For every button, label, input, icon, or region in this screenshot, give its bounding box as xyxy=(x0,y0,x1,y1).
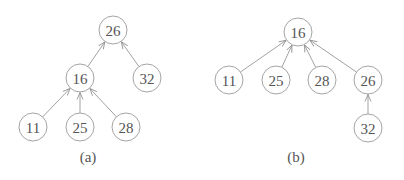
node-label: 32 xyxy=(361,121,376,137)
node-label: 11 xyxy=(26,120,40,136)
edge-28-to-16 xyxy=(304,45,315,68)
node-28: 28 xyxy=(112,113,140,141)
node-label: 11 xyxy=(222,73,236,89)
edge-32-to-26 xyxy=(121,42,139,67)
edge-28-to-16 xyxy=(90,89,116,117)
edge-11-to-16 xyxy=(43,88,70,116)
node-label: 32 xyxy=(140,71,155,87)
node-label: 25 xyxy=(269,73,284,89)
node-16: 16 xyxy=(66,64,94,92)
node-28: 28 xyxy=(308,66,336,94)
node-label: 26 xyxy=(106,23,122,39)
node-26: 26 xyxy=(99,16,127,44)
nodes-layer: 261632112528161125282632 xyxy=(19,16,382,142)
node-16: 16 xyxy=(284,18,312,46)
node-label: 25 xyxy=(73,120,88,136)
caption-b: (b) xyxy=(287,149,305,166)
node-label: 26 xyxy=(361,73,377,89)
union-find-diagram: 261632112528161125282632 (a)(b) xyxy=(0,0,404,180)
node-25: 25 xyxy=(66,113,94,141)
node-11: 11 xyxy=(19,113,47,141)
edge-16-to-26 xyxy=(88,42,105,67)
node-label: 28 xyxy=(119,120,134,136)
node-32: 32 xyxy=(133,64,161,92)
caption-a: (a) xyxy=(80,149,97,166)
edge-25-to-16 xyxy=(282,45,292,67)
node-25: 25 xyxy=(262,66,290,94)
node-32: 32 xyxy=(354,114,382,142)
node-label: 16 xyxy=(73,71,89,87)
node-26: 26 xyxy=(354,66,382,94)
node-label: 28 xyxy=(315,73,330,89)
node-11: 11 xyxy=(215,66,243,94)
node-label: 16 xyxy=(291,25,307,41)
captions-layer: (a)(b) xyxy=(80,149,305,166)
